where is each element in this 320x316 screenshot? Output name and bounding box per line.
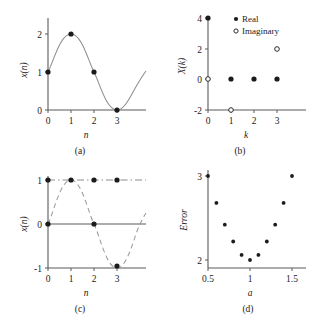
panel-d-point — [231, 240, 235, 244]
legend-imaginary-marker-icon — [234, 29, 238, 33]
panel-c-point — [114, 177, 119, 182]
panel-a-ylabel: x(n) — [19, 62, 30, 78]
panel-b-xtick-2: 2 — [252, 116, 257, 126]
panel-a-xtick-3: 3 — [115, 116, 120, 126]
panel-c-xtick-3: 3 — [115, 274, 120, 284]
panel-c-ytick-1: 1 — [37, 176, 42, 186]
panel-a-point — [45, 69, 50, 74]
panel-d-point — [215, 201, 219, 205]
panel-d-caption: (d) — [242, 304, 253, 315]
panel-d-xlabel: a — [248, 288, 253, 298]
panel-b-imag-point — [206, 77, 211, 82]
panel-c-point — [91, 177, 96, 182]
panel-b-ytick-4: 4 — [197, 14, 202, 24]
panel-b-ytick-2: 2 — [197, 45, 202, 55]
panel-b-imag-point — [229, 108, 234, 113]
panel-c-xlabel: n — [84, 288, 89, 298]
panel-c-ytick-0: 0 — [37, 220, 42, 230]
panel-c-xtick-1: 1 — [69, 274, 74, 284]
panel-b-real-point — [205, 15, 210, 20]
panel-b-ytick-m2: -2 — [194, 106, 202, 116]
figure-sheet: 0 1 2 0 1 2 3 n x(n) (a) — [0, 0, 320, 316]
legend-real-label: Real — [242, 14, 259, 24]
panel-a-point — [91, 69, 96, 74]
panel-c-ytick-m1: -1 — [34, 264, 42, 274]
panel-b-legend: Real Imaginary — [234, 14, 280, 36]
panel-a-xtick-1: 1 — [69, 116, 74, 126]
panel-c-ylabel: x(n) — [19, 216, 30, 232]
panel-a: 0 1 2 0 1 2 3 n x(n) (a) — [0, 0, 160, 158]
panel-d-point — [248, 258, 252, 262]
panel-c-xtick-0: 0 — [46, 274, 51, 284]
panel-b-xtick-1: 1 — [229, 116, 234, 126]
panel-d-point — [282, 201, 286, 205]
panel-d-ylabel: Error — [179, 209, 189, 232]
panel-c-point — [91, 221, 96, 226]
panel-c-point — [45, 177, 50, 182]
panel-a-point — [114, 107, 119, 112]
panel-a-point — [68, 31, 73, 36]
panel-d-point — [257, 253, 261, 257]
panel-d-point — [273, 223, 277, 227]
panel-c-xtick-2: 2 — [92, 274, 97, 284]
panel-b-caption: (b) — [234, 146, 245, 157]
panel-a-ytick-1: 1 — [37, 68, 42, 78]
panel-d-point — [290, 174, 294, 178]
panel-c-caption: (c) — [75, 304, 86, 315]
panel-d-point — [240, 253, 244, 257]
panel-d-point — [223, 223, 227, 227]
legend-real-marker-icon — [234, 17, 238, 21]
panel-a-xlabel: n — [84, 130, 89, 140]
panel-d-point — [265, 240, 269, 244]
panel-c: 1 0 -1 0 1 2 3 n x(n) (c) — [0, 158, 160, 316]
panel-c-point — [45, 221, 50, 226]
panel-a-caption: (a) — [75, 146, 86, 157]
legend-imaginary-label: Imaginary — [242, 26, 279, 36]
panel-a-xtick-2: 2 — [92, 116, 97, 126]
panel-b: 4 2 0 -2 0 1 2 3 k X(k) Real Imaginary (… — [160, 0, 320, 158]
panel-a-ytick-0: 0 — [37, 106, 42, 116]
panel-d-xtick-15: 1.5 — [286, 274, 298, 284]
panel-c-point — [114, 263, 119, 268]
panel-b-xlabel: k — [244, 130, 249, 140]
panel-a-ytick-2: 2 — [37, 30, 42, 40]
panel-d-ytick-2: 2 — [197, 256, 202, 266]
panel-d-point — [206, 174, 210, 178]
panel-b-real-point — [251, 76, 256, 81]
panel-a-sinusoid — [48, 34, 146, 110]
panel-d-ytick-3: 3 — [197, 172, 202, 182]
panel-b-real-point — [274, 76, 279, 81]
panel-b-xtick-0: 0 — [206, 116, 211, 126]
panel-b-imag-point — [275, 47, 280, 52]
panel-b-ylabel: X(k) — [177, 58, 188, 75]
panel-d: 3 2 0.5 1 1.5 a Error (d) — [160, 158, 320, 316]
panel-b-xtick-3: 3 — [275, 116, 280, 126]
panel-c-point — [68, 177, 73, 182]
panel-d-xtick-05: 0.5 — [202, 274, 214, 284]
panel-b-real-point — [228, 76, 233, 81]
panel-a-xtick-0: 0 — [46, 116, 51, 126]
panel-b-ytick-0: 0 — [197, 75, 202, 85]
panel-d-xtick-1: 1 — [248, 274, 253, 284]
